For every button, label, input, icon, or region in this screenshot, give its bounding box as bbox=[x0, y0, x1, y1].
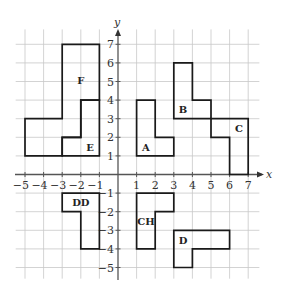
x-tick-label: 5 bbox=[208, 179, 215, 192]
x-tick-label: 2 bbox=[152, 179, 159, 192]
y-tick-label: 7 bbox=[107, 38, 114, 51]
x-tick-label: −4 bbox=[31, 179, 47, 192]
y-tick-label: 6 bbox=[107, 57, 114, 70]
x-tick-label: −3 bbox=[50, 179, 66, 192]
y-tick-label: −5 bbox=[98, 262, 114, 275]
x-tick-label: 3 bbox=[170, 179, 177, 192]
grid-lines bbox=[16, 29, 260, 278]
y-tick-label: 3 bbox=[107, 113, 114, 126]
x-tick-label: 7 bbox=[245, 179, 252, 192]
y-axis-arrow-icon bbox=[115, 29, 121, 36]
x-axis-label: x bbox=[266, 168, 273, 181]
y-tick-label: 4 bbox=[107, 94, 114, 107]
x-axis-arrow-icon bbox=[257, 172, 264, 178]
shape-label-d: D bbox=[179, 235, 188, 246]
coordinate-grid: x y −5−4−3−2−112345677654321−1−2−3−4−5 F… bbox=[0, 0, 281, 293]
y-tick-label: 1 bbox=[107, 150, 114, 163]
x-tick-label: 4 bbox=[189, 179, 196, 192]
y-axis-label: y bbox=[113, 16, 121, 29]
x-tick-label: −5 bbox=[13, 179, 29, 192]
shape-label-a: A bbox=[141, 142, 150, 153]
x-tick-label: 1 bbox=[133, 179, 140, 192]
shape-label-ch: CH bbox=[137, 216, 154, 227]
shape-label-b: B bbox=[179, 104, 187, 115]
y-tick-label: 5 bbox=[107, 76, 114, 89]
x-tick-label: 6 bbox=[226, 179, 233, 192]
shape-label-dd: DD bbox=[72, 197, 90, 208]
shape-label-c: C bbox=[235, 123, 243, 134]
y-tick-label: 2 bbox=[107, 131, 114, 144]
shape-label-f: F bbox=[77, 75, 84, 86]
shape-label-e: E bbox=[86, 142, 94, 153]
x-tick-label: −2 bbox=[69, 179, 85, 192]
